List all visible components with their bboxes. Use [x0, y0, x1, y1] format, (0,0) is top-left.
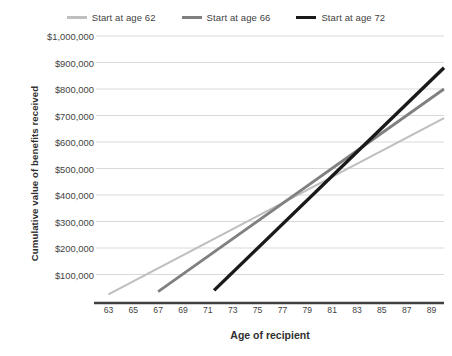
x-tick-label: 77: [278, 305, 288, 315]
x-tick-label: 81: [327, 305, 337, 315]
x-tick-label: 87: [402, 305, 412, 315]
x-tick-label: 79: [303, 305, 313, 315]
x-tick-label: 63: [104, 305, 114, 315]
x-tick-label: 75: [253, 305, 263, 315]
x-axis-tick-labels: 6365676971737577798183858789: [0, 0, 452, 356]
x-tick-label: 73: [228, 305, 238, 315]
x-tick-label: 65: [129, 305, 139, 315]
x-tick-label: 85: [377, 305, 387, 315]
x-tick-label: 67: [153, 305, 163, 315]
x-tick-label: 89: [427, 305, 437, 315]
x-axis-title: Age of recipient: [95, 329, 445, 341]
x-tick-label: 69: [178, 305, 188, 315]
x-tick-label: 83: [352, 305, 362, 315]
x-tick-label: 71: [203, 305, 213, 315]
chart-container: Start at age 62 Start at age 66 Start at…: [0, 0, 452, 356]
